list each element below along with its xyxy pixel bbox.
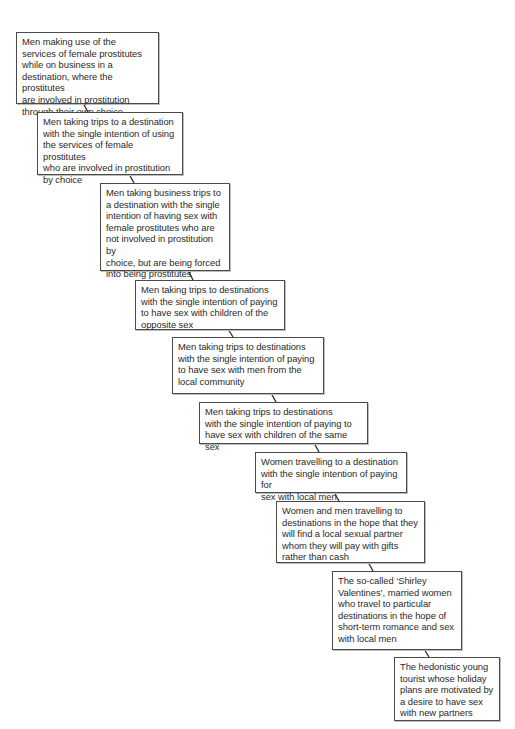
- box-trips-children-same-sex: Men taking trips to destinations with th…: [199, 402, 368, 444]
- connector-4-5: [228, 329, 233, 337]
- connector-9-10: [424, 649, 429, 657]
- box-gifts-rather-than-cash: Women and men travelling to destinations…: [276, 501, 425, 563]
- connector-8-9: [368, 562, 373, 571]
- box-trips-for-forced-prostitutes: Men taking business trips to a destinati…: [100, 183, 230, 271]
- box-business-travellers-voluntary-prostitutes: Men making use of the services of female…: [16, 32, 159, 104]
- connector-5-6: [271, 393, 276, 402]
- continuum-diagram: Men making use of the services of female…: [0, 0, 515, 729]
- box-hedonistic-young-tourist: The hedonistic young tourist whose holid…: [394, 657, 500, 721]
- box-trips-for-voluntary-prostitutes: Men taking trips to a destination with t…: [37, 112, 183, 175]
- box-women-paying-local-men: Women travelling to a destination with t…: [255, 452, 407, 493]
- connector-6-7: [314, 443, 319, 452]
- box-trips-men-local-community: Men taking trips to destinations with th…: [172, 337, 324, 394]
- box-shirley-valentines: The so-called ‘Shirley Valentines’, marr…: [332, 571, 462, 650]
- box-trips-children-opposite-sex: Men taking trips to destinations with th…: [135, 280, 285, 330]
- connector-2-3: [129, 174, 134, 183]
